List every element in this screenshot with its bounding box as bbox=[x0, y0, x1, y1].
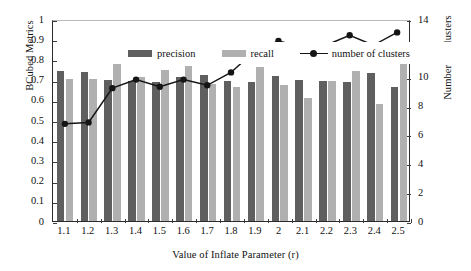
x-axis-title: Value of Inflate Parameter (r) bbox=[0, 249, 471, 260]
legend-label-recall: recall bbox=[251, 48, 274, 59]
y-axis-left-tickmark bbox=[53, 21, 57, 22]
y-axis-left-tick: 0 bbox=[14, 217, 44, 228]
x-axis-tick: 2.5 bbox=[383, 226, 413, 237]
y-axis-left-tick: 0.2 bbox=[14, 176, 44, 187]
legend-label-precision: precision bbox=[157, 48, 196, 59]
x-axis-tickmark bbox=[363, 219, 364, 223]
bcubed-metrics-chart: BCubed Metrics Number of Clusters Value … bbox=[0, 0, 471, 271]
x-axis-tickmark bbox=[220, 219, 221, 223]
x-axis-tickmark bbox=[292, 219, 293, 223]
y-axis-left-tickmark bbox=[53, 162, 57, 163]
x-axis-tickmark bbox=[77, 219, 78, 223]
legend-item-precision: precision bbox=[128, 48, 196, 59]
y-axis-right-tick: 14 bbox=[418, 15, 448, 26]
legend-item-number-of-clusters: number of clusters bbox=[300, 48, 410, 59]
y-axis-right-tickmark bbox=[407, 79, 411, 80]
cluster-data-point bbox=[180, 76, 186, 82]
y-axis-right-tick: 4 bbox=[418, 159, 448, 170]
x-axis-tickmark bbox=[387, 219, 388, 223]
y-axis-left-tick: 0.5 bbox=[14, 116, 44, 127]
y-axis-right-tick: 2 bbox=[418, 188, 448, 199]
x-axis-tickmark bbox=[125, 219, 126, 223]
y-axis-right-tick: 10 bbox=[418, 72, 448, 83]
cluster-data-point bbox=[62, 121, 68, 127]
y-axis-left-tickmark bbox=[53, 102, 57, 103]
y-axis-right-tickmark bbox=[407, 223, 411, 224]
y-axis-left-tickmark bbox=[53, 223, 57, 224]
y-axis-right-tickmark bbox=[407, 136, 411, 137]
cluster-data-point bbox=[157, 84, 163, 90]
chart-legend: precision recall number of clusters bbox=[106, 42, 462, 64]
cluster-data-point bbox=[109, 85, 115, 91]
cluster-data-point bbox=[204, 82, 210, 88]
cluster-data-point bbox=[133, 76, 139, 82]
x-axis-tickmark bbox=[172, 219, 173, 223]
y-axis-left-tickmark bbox=[53, 142, 57, 143]
plot-area: precision recall number of clusters bbox=[52, 20, 410, 222]
cluster-data-point bbox=[228, 69, 234, 75]
y-axis-left-tick: 0.7 bbox=[14, 75, 44, 86]
y-axis-left-tickmark bbox=[53, 61, 57, 62]
y-axis-left-tickmark bbox=[53, 183, 57, 184]
cluster-data-point bbox=[85, 119, 91, 125]
y-axis-left-tickmark bbox=[53, 122, 57, 123]
y-axis-right-tickmark bbox=[407, 108, 411, 109]
x-axis-tickmark bbox=[316, 219, 317, 223]
cluster-data-point bbox=[394, 29, 400, 35]
x-axis-tickmark bbox=[196, 219, 197, 223]
x-axis-tickmark bbox=[339, 219, 340, 223]
legend-label-number-of-clusters: number of clusters bbox=[332, 48, 410, 59]
y-axis-right-tickmark bbox=[407, 194, 411, 195]
line-marker-icon bbox=[300, 49, 328, 58]
y-axis-left-tick: 0.8 bbox=[14, 55, 44, 66]
x-axis-tickmark bbox=[101, 219, 102, 223]
precision-swatch-icon bbox=[128, 50, 152, 57]
y-axis-right-tick: 0 bbox=[418, 217, 448, 228]
x-axis-tickmark bbox=[244, 219, 245, 223]
y-axis-left-tickmark bbox=[53, 203, 57, 204]
x-axis-tickmark bbox=[148, 219, 149, 223]
x-axis-tickmark bbox=[411, 219, 412, 223]
y-axis-left-tick: 0.6 bbox=[14, 95, 44, 106]
recall-swatch-icon bbox=[222, 50, 246, 57]
x-axis-tickmark bbox=[268, 219, 269, 223]
legend-item-recall: recall bbox=[222, 48, 274, 59]
y-axis-right-tick: 6 bbox=[418, 130, 448, 141]
y-axis-left-tick: 0.9 bbox=[14, 35, 44, 46]
y-axis-left-tick: 0.4 bbox=[14, 136, 44, 147]
y-axis-right-tickmark bbox=[407, 21, 411, 22]
y-axis-right-tickmark bbox=[407, 165, 411, 166]
y-axis-right-tick: 8 bbox=[418, 101, 448, 112]
y-axis-left-tick: 0.3 bbox=[14, 156, 44, 167]
cluster-data-point bbox=[346, 32, 352, 38]
y-axis-left-tickmark bbox=[53, 41, 57, 42]
y-axis-left-tick: 1 bbox=[14, 15, 44, 26]
y-axis-left-tick: 0.1 bbox=[14, 196, 44, 207]
y-axis-left-tickmark bbox=[53, 82, 57, 83]
